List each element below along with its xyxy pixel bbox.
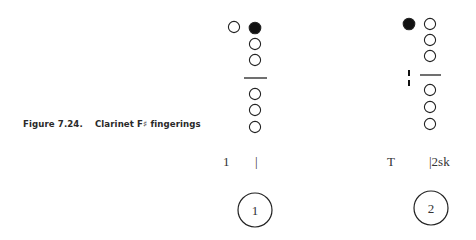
fingering-chart-2 bbox=[403, 18, 448, 225]
fingering-diagrams: 1 2 bbox=[0, 0, 476, 240]
thumb-hole-open-icon bbox=[228, 21, 239, 32]
hole-open-icon bbox=[424, 18, 435, 29]
fingering-2-right-key-label: |2sk bbox=[429, 155, 450, 168]
hole-open-icon bbox=[424, 101, 435, 112]
hole-closed-icon bbox=[249, 22, 261, 34]
fingering-1-right-key-label: | bbox=[255, 155, 258, 168]
fingering-2-left-key-label: T bbox=[387, 155, 395, 168]
hole-open-icon bbox=[424, 118, 435, 129]
fingering-1-left-key-label: 1 bbox=[223, 155, 230, 168]
hole-open-icon bbox=[249, 121, 260, 132]
hole-open-icon bbox=[249, 54, 260, 65]
thumb-hole-closed-icon bbox=[403, 18, 415, 30]
hole-open-icon bbox=[424, 84, 435, 95]
fingering-number-2: 2 bbox=[428, 201, 435, 216]
fingering-number-1: 1 bbox=[252, 203, 259, 218]
hole-open-icon bbox=[424, 34, 435, 45]
hole-open-icon bbox=[249, 104, 260, 115]
hole-open-icon bbox=[249, 88, 260, 99]
hole-open-icon bbox=[424, 50, 435, 61]
fingering-chart-1 bbox=[228, 21, 272, 227]
hole-open-icon bbox=[249, 38, 260, 49]
